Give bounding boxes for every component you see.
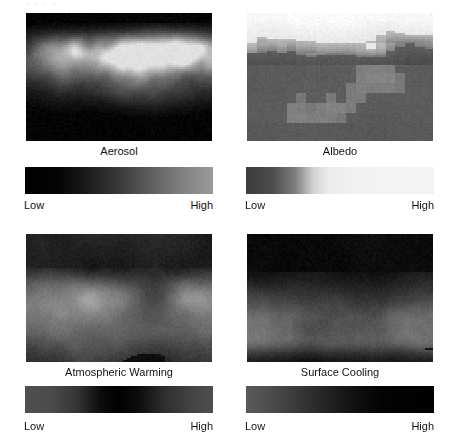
figure-root: · · · · AerosolLowHighAlbedoLowHighAtmos…	[0, 0, 460, 443]
map-image-surface-cooling	[247, 234, 433, 362]
panel-label-surface-cooling: Surface Cooling	[247, 366, 433, 379]
colorbar-scale-surface-cooling: LowHigh	[246, 419, 434, 433]
colorbar-low-label-surface-cooling: Low	[245, 419, 265, 433]
colorbar-high-label-surface-cooling: High	[411, 419, 434, 433]
map-canvas-surface-cooling	[247, 234, 433, 362]
panel-surface-cooling: Surface CoolingLowHigh	[0, 0, 460, 443]
colorbar-surface-cooling	[246, 386, 434, 413]
